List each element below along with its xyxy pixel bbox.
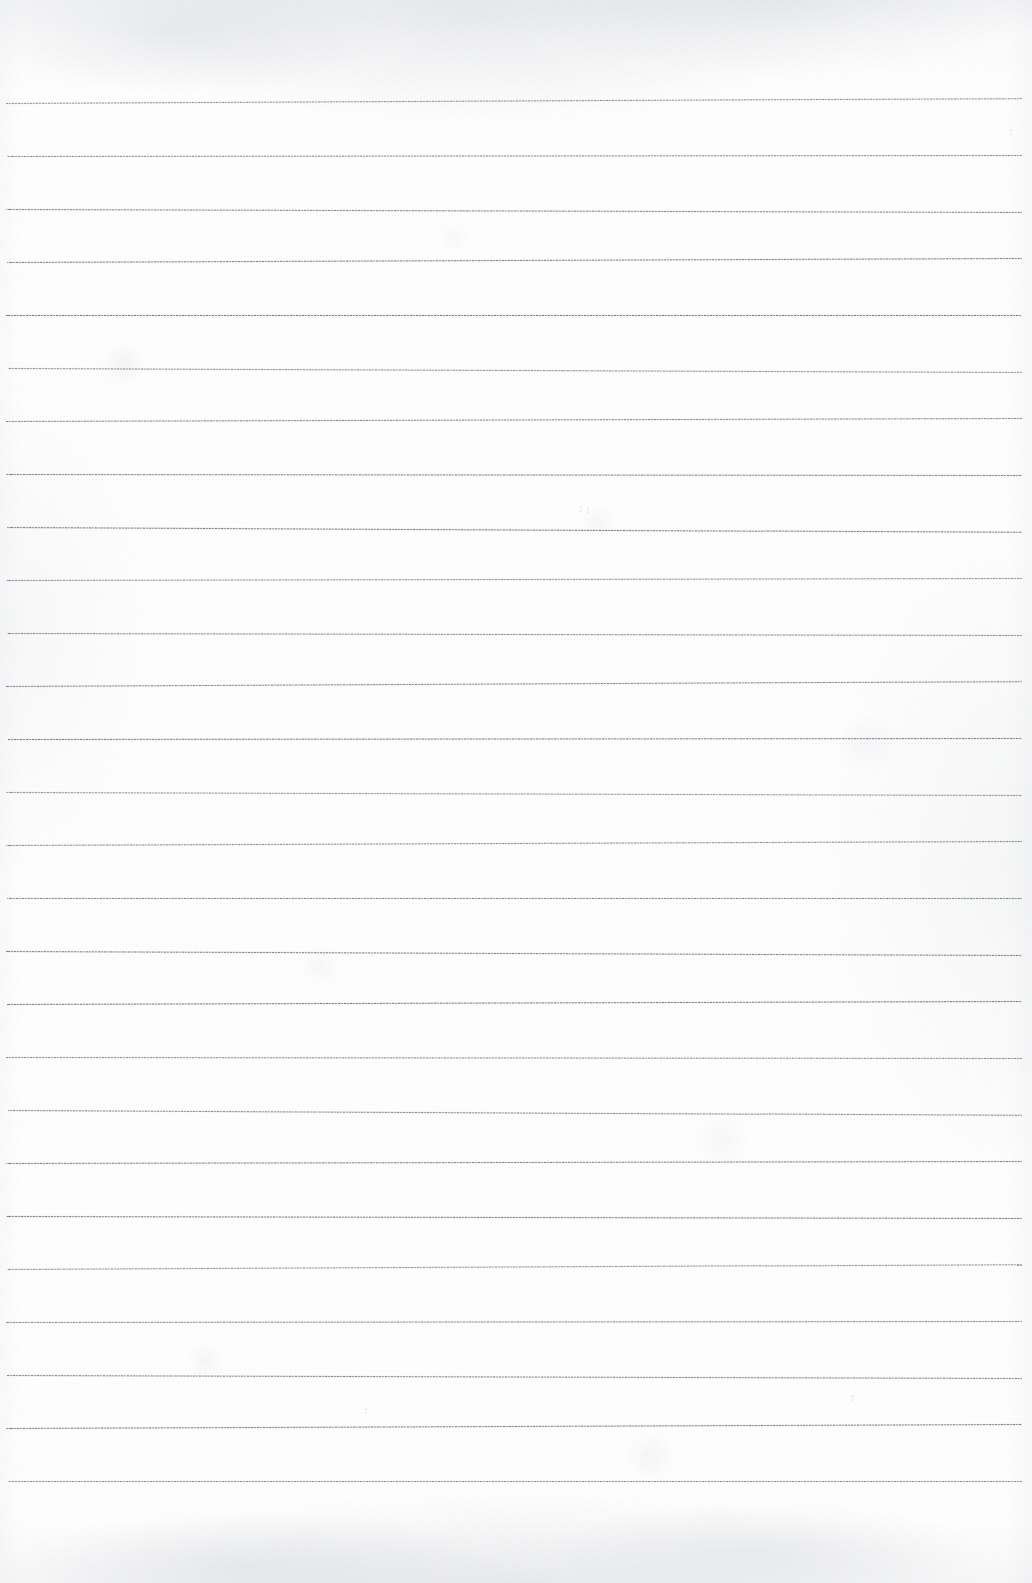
- ruled-line-halo: [7, 526, 1022, 534]
- scanned-page: [0, 0, 1032, 1583]
- ruled-line-stroke: [6, 951, 1022, 956]
- ruled-line-stroke: [6, 681, 1022, 687]
- ruled-line-stroke: [8, 368, 1022, 373]
- ruled-line: [6, 841, 1022, 847]
- ruled-line-halo: [6, 314, 1022, 317]
- ruled-line-stroke: [6, 1161, 1022, 1164]
- ruled-line-stroke: [6, 841, 1022, 846]
- ruled-line: [7, 258, 1022, 264]
- ruled-line: [8, 738, 1022, 741]
- ruled-line-stroke: [6, 1057, 1022, 1059]
- ruled-line-halo: [6, 1215, 1022, 1220]
- ruled-line-halo: [6, 473, 1022, 477]
- ruled-line-halo: [6, 680, 1022, 688]
- ruled-line-halo: [6, 417, 1022, 423]
- ruled-line-stroke: [7, 258, 1022, 263]
- ruled-line-halo: [7, 632, 1022, 637]
- ruled-line-halo: [7, 154, 1022, 158]
- ruled-line: [6, 1321, 1022, 1324]
- ruled-line-halo: [6, 1423, 1022, 1430]
- ruled-line-stroke: [8, 1110, 1022, 1116]
- ruled-line: [8, 368, 1022, 374]
- ruled-line: [6, 792, 1022, 797]
- scan-speck: [586, 507, 590, 514]
- ruled-line-halo: [6, 1160, 1022, 1165]
- ruled-line: [8, 1481, 1022, 1483]
- ruled-line-halo: [7, 257, 1022, 264]
- ruled-line: [7, 633, 1022, 637]
- ruled-line-stroke: [6, 315, 1022, 316]
- ruled-line: [7, 898, 1022, 900]
- ruled-line-stroke: [6, 98, 1022, 104]
- ruled-line: [6, 1216, 1022, 1220]
- ruled-line-stroke: [7, 527, 1022, 533]
- ruled-line: [8, 1110, 1022, 1117]
- ruled-line: [6, 418, 1022, 423]
- ruled-line-stroke: [6, 474, 1022, 476]
- ruled-line: [6, 315, 1022, 317]
- ruled-line: [6, 98, 1022, 105]
- ruled-line: [6, 1057, 1022, 1060]
- ruled-line-halo: [8, 1109, 1022, 1117]
- ruled-line: [7, 527, 1022, 534]
- ruled-line-halo: [6, 208, 1022, 214]
- ruled-line-halo: [6, 950, 1022, 957]
- ruled-line: [7, 1375, 1022, 1380]
- ruled-line: [6, 474, 1022, 477]
- ruled-line-halo: [6, 1056, 1022, 1060]
- ruled-line: [6, 1424, 1022, 1430]
- ruled-line: [6, 681, 1022, 688]
- ruled-line: [6, 951, 1022, 957]
- ruled-line-halo: [7, 1000, 1022, 1006]
- ruled-lines-layer: [0, 0, 1032, 1583]
- ruled-line-stroke: [7, 1001, 1022, 1005]
- ruled-line-halo: [7, 1263, 1022, 1271]
- ruled-line-stroke: [6, 1424, 1022, 1429]
- scan-speck: [1009, 129, 1013, 136]
- ruled-line-halo: [8, 367, 1022, 374]
- ruled-line-halo: [6, 791, 1022, 797]
- ruled-line-stroke: [6, 418, 1022, 422]
- ruled-line-stroke: [6, 1216, 1022, 1219]
- scan-speck: [851, 1395, 855, 1402]
- ruled-line-halo: [6, 840, 1022, 847]
- ruled-line-stroke: [6, 578, 1022, 581]
- ruled-line-stroke: [8, 738, 1022, 740]
- ruled-line-stroke: [7, 1375, 1022, 1379]
- ruled-line: [6, 1161, 1022, 1165]
- ruled-line: [6, 578, 1022, 582]
- ruled-line-halo: [7, 1374, 1022, 1380]
- ruled-line-stroke: [6, 792, 1022, 796]
- ruled-line-stroke: [7, 898, 1022, 899]
- ruled-line-stroke: [7, 1264, 1022, 1270]
- ruled-line-stroke: [7, 633, 1022, 636]
- ruled-line-stroke: [8, 1481, 1022, 1482]
- ruled-line: [7, 1001, 1022, 1006]
- scan-speck: [364, 1408, 368, 1415]
- ruled-line-halo: [6, 577, 1022, 582]
- ruled-line: [7, 155, 1022, 158]
- ruled-line-halo: [6, 97, 1022, 105]
- ruled-line-halo: [7, 897, 1022, 900]
- scan-speck: [579, 506, 583, 513]
- ruled-line-stroke: [6, 209, 1022, 213]
- ruled-line-halo: [8, 737, 1022, 741]
- ruled-line-halo: [8, 1480, 1022, 1483]
- ruled-line: [7, 1264, 1022, 1271]
- ruled-line-stroke: [7, 155, 1022, 157]
- ruled-line-stroke: [6, 1321, 1022, 1323]
- ruled-line-halo: [6, 1320, 1022, 1324]
- ruled-line: [6, 209, 1022, 214]
